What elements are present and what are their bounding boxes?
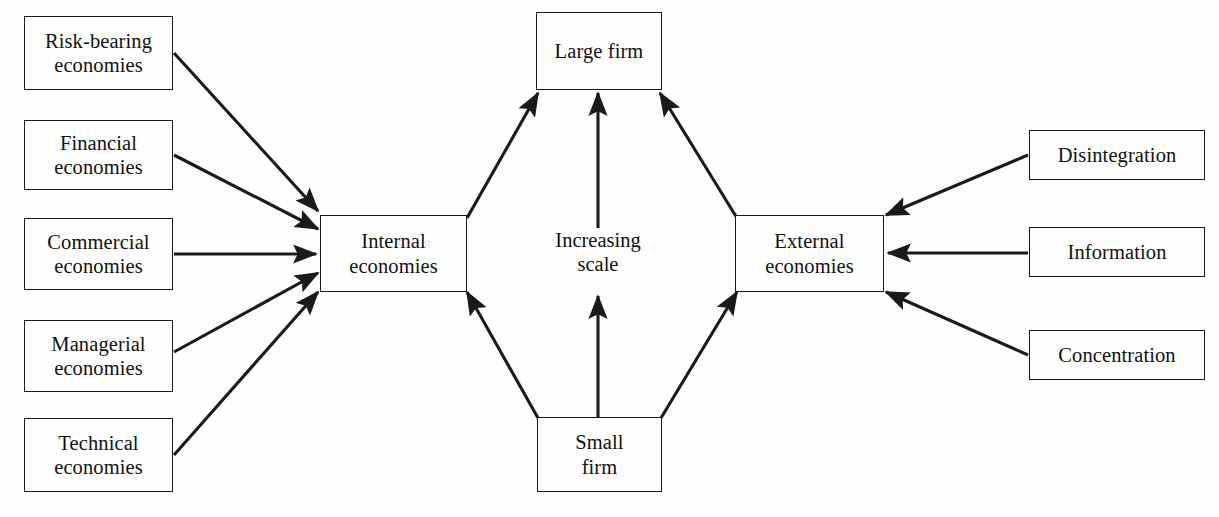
node-small-firm: Small firm <box>537 417 662 492</box>
edge-disintegration-to-external <box>886 155 1028 215</box>
node-label: Managerial economies <box>45 332 151 380</box>
edge-financial-to-internal <box>174 155 318 229</box>
edge-small-firm-to-internal <box>467 292 538 418</box>
node-label: Risk-bearing economies <box>39 29 158 77</box>
node-internal-economies: Internal economies <box>320 215 467 292</box>
edge-technical-to-internal <box>174 292 318 455</box>
increasing-scale-label: Increasing scale <box>528 228 668 276</box>
diagram-canvas: Risk-bearing economies Financial economi… <box>0 0 1219 517</box>
node-information: Information <box>1029 227 1205 277</box>
edge-risk-bearing-to-internal <box>174 53 318 211</box>
node-label: Small firm <box>569 430 629 478</box>
node-technical-economies: Technical economies <box>24 418 173 492</box>
node-large-firm: Large firm <box>536 12 662 90</box>
node-label: Technical economies <box>48 431 149 479</box>
node-label: Internal economies <box>343 229 444 277</box>
node-managerial-economies: Managerial economies <box>24 320 173 392</box>
edge-managerial-to-internal <box>174 273 318 352</box>
edge-internal-to-large-firm <box>467 93 538 218</box>
node-label: External economies <box>759 229 860 277</box>
node-disintegration: Disintegration <box>1029 130 1205 180</box>
node-concentration: Concentration <box>1029 330 1205 380</box>
node-label: Disintegration <box>1052 143 1183 167</box>
node-label: Financial economies <box>48 131 149 179</box>
edge-small-firm-to-external <box>661 292 737 418</box>
node-label: Information <box>1061 240 1172 264</box>
node-external-economies: External economies <box>735 215 884 292</box>
node-commercial-economies: Commercial economies <box>24 218 173 290</box>
node-label: Large firm <box>549 39 650 63</box>
node-label: Commercial economies <box>41 230 155 278</box>
node-label: Concentration <box>1052 343 1181 367</box>
node-risk-bearing-economies: Risk-bearing economies <box>24 16 173 90</box>
node-financial-economies: Financial economies <box>24 120 173 190</box>
edge-external-to-large-firm <box>660 93 737 218</box>
edge-concentration-to-external <box>886 292 1028 355</box>
